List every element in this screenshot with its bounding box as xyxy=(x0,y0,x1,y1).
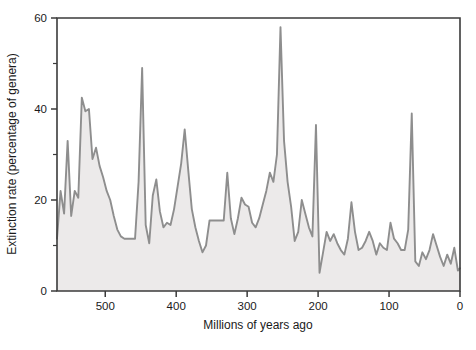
y-tick-label: 60 xyxy=(34,12,47,24)
x-axis-title: Millions of years ago xyxy=(203,318,313,332)
x-tick-label: 0 xyxy=(457,300,463,312)
x-axis-ticks: 5004003002001000 xyxy=(96,291,464,312)
x-tick-label: 300 xyxy=(238,300,257,312)
y-tick-label: 0 xyxy=(41,285,47,297)
x-tick-label: 200 xyxy=(309,300,328,312)
x-tick-label: 400 xyxy=(167,300,186,312)
chart-canvas: 0204060 5004003002001000 Extinction rate… xyxy=(0,0,476,350)
y-axis-ticks: 0204060 xyxy=(34,12,57,297)
y-tick-label: 20 xyxy=(34,194,47,206)
y-axis-title: Extinction rate (percentage of genera) xyxy=(5,53,19,254)
y-tick-label: 40 xyxy=(34,103,47,115)
x-tick-label: 500 xyxy=(96,300,115,312)
extinction-rate-chart: 0204060 5004003002001000 Extinction rate… xyxy=(0,0,476,350)
x-tick-label: 100 xyxy=(379,300,398,312)
extinction-area-fill xyxy=(57,27,460,291)
